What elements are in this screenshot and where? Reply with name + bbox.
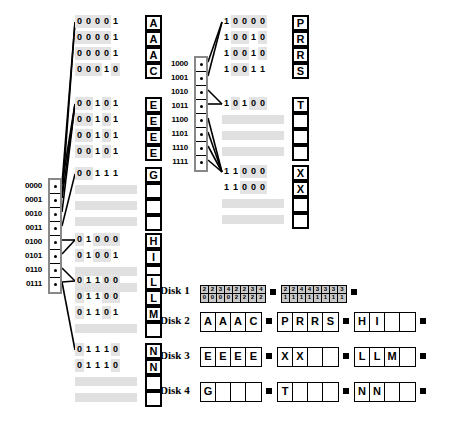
disk-cell: E <box>231 348 246 366</box>
directory-slot[interactable] <box>50 250 60 264</box>
bucket-cell[interactable]: X <box>292 181 309 197</box>
directory-slot[interactable] <box>196 58 206 72</box>
directory-slot[interactable] <box>50 236 60 250</box>
disk-block[interactable]: T <box>277 382 339 402</box>
disk-block[interactable]: PRRS <box>277 312 339 332</box>
directory-slot[interactable] <box>196 128 206 142</box>
bucket-cell[interactable]: A <box>145 31 162 47</box>
disk-cell: A <box>231 313 246 331</box>
disk-cell: 3 <box>217 286 225 294</box>
directory-slot[interactable] <box>50 264 60 278</box>
disk-cell: L <box>370 348 385 366</box>
directory-slot[interactable] <box>196 100 206 114</box>
record-bits: 01101 <box>75 306 120 319</box>
disk-cell: 2 <box>201 286 209 294</box>
directory-slot[interactable] <box>50 180 60 194</box>
disk-cell: L <box>355 348 370 366</box>
bucket-cell[interactable] <box>292 129 309 145</box>
left-directory <box>48 178 62 294</box>
record-bits: 01100 <box>75 274 120 287</box>
bucket-cell[interactable]: E <box>145 129 162 145</box>
directory-slot[interactable] <box>196 142 206 156</box>
directory-slot[interactable] <box>196 72 206 86</box>
disk-cell: 0 <box>225 294 233 302</box>
disk-cell: M <box>385 348 400 366</box>
bucket-cell[interactable]: A <box>145 47 162 63</box>
bucket-cell[interactable] <box>145 215 162 231</box>
directory-slot[interactable] <box>196 86 206 100</box>
empty-slot-bar <box>75 217 137 226</box>
bucket-cell[interactable]: S <box>292 63 309 79</box>
end-of-block-marker <box>343 318 349 324</box>
disk-block[interactable]: AAAC <box>200 312 262 332</box>
left-directory-label-1: 0001 <box>12 195 42 204</box>
bucket-cell[interactable]: P <box>292 15 309 31</box>
bucket-cell[interactable] <box>292 113 309 129</box>
right-directory-label-7: 1111 <box>158 157 188 166</box>
disk-cell: 2 <box>241 286 249 294</box>
disk-cell: 2 <box>233 286 241 294</box>
right-directory-label-5: 1101 <box>158 129 188 138</box>
empty-slot-bar <box>75 185 137 194</box>
empty-slot-bar <box>222 199 284 208</box>
disk-cell: R <box>308 313 323 331</box>
directory-slot[interactable] <box>50 222 60 236</box>
left-directory-label-4: 0100 <box>12 237 42 246</box>
bucket-cell[interactable]: E <box>145 145 162 161</box>
disk-block[interactable]: G <box>200 382 262 402</box>
disk-cell: 0 <box>209 294 217 302</box>
bucket-cell[interactable]: R <box>292 47 309 63</box>
disk-block[interactable]: HI <box>354 312 416 332</box>
bucket-cell[interactable] <box>145 183 162 199</box>
disk-block[interactable]: XX <box>277 347 339 367</box>
bucket-cell[interactable] <box>292 197 309 213</box>
disk-block[interactable]: EEEE <box>200 347 262 367</box>
record-bits: 00101 <box>75 97 120 110</box>
bucket-cell[interactable]: R <box>292 31 309 47</box>
bucket-cell[interactable]: C <box>145 63 162 79</box>
disk-cell: R <box>293 313 308 331</box>
bucket-cell[interactable]: H <box>145 233 162 249</box>
bucket-cell[interactable]: A <box>145 15 162 31</box>
bucket-cell[interactable]: E <box>145 113 162 129</box>
bucket-cell[interactable]: T <box>292 97 309 113</box>
disk-block[interactable]: 2234223400002222 <box>200 285 266 303</box>
bucket-cell[interactable] <box>145 199 162 215</box>
record-bits: 00001 <box>75 47 120 60</box>
diagram-canvas: 0000 0001 0010 0011 0100 0101 0110 0111 … <box>0 0 461 442</box>
bucket-cell[interactable]: X <box>292 165 309 181</box>
disk-cell: A <box>216 313 231 331</box>
disk-block[interactable]: LLM <box>354 347 416 367</box>
disk-cell: 1 <box>298 294 306 302</box>
disk-block[interactable]: 2244333311111111 <box>281 285 347 303</box>
disk-cell: 2 <box>282 286 290 294</box>
disk-block[interactable]: NN <box>354 382 416 402</box>
bucket-cell[interactable] <box>292 213 309 229</box>
disk-cell <box>323 383 338 401</box>
disk-cell: 1 <box>322 294 330 302</box>
empty-slot-bar <box>75 201 137 210</box>
disk-cell: 4 <box>257 286 265 294</box>
directory-slot[interactable] <box>50 278 60 292</box>
directory-slot[interactable] <box>196 156 206 170</box>
bucket-cell[interactable]: E <box>145 97 162 113</box>
disk-cell: E <box>216 348 231 366</box>
disk-cell: 4 <box>298 286 306 294</box>
disk-cell: I <box>370 313 385 331</box>
disk-cell <box>400 383 415 401</box>
record-bits: 10000 <box>222 15 267 28</box>
directory-slot[interactable] <box>50 194 60 208</box>
disk-cell: 2 <box>209 286 217 294</box>
bucket-cell[interactable] <box>292 145 309 161</box>
bucket-cell[interactable]: G <box>145 167 162 183</box>
empty-slot-bar <box>75 324 137 333</box>
directory-slot[interactable] <box>196 114 206 128</box>
left-directory-label-3: 0011 <box>12 223 42 232</box>
disk-cell <box>400 313 415 331</box>
bucket-cell[interactable]: I <box>145 249 162 265</box>
disk-cell <box>400 348 415 366</box>
disk-cell: 2 <box>249 294 257 302</box>
directory-slot[interactable] <box>50 208 60 222</box>
left-directory-label-5: 0101 <box>12 251 42 260</box>
disk-cell <box>293 383 308 401</box>
